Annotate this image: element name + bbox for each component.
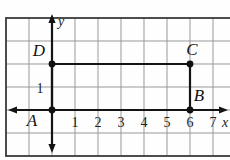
point-label-D: D [32, 41, 46, 60]
point-dot-C [187, 61, 194, 68]
y-axis-label: y [56, 14, 65, 29]
x-tick-label-3: 3 [118, 115, 125, 130]
point-dot-B [187, 107, 194, 114]
point-label-B: B [194, 86, 205, 105]
figure-container: ABCD 12345671 y x [0, 0, 230, 160]
point-dot-D [49, 61, 56, 68]
point-label-C: C [186, 40, 198, 59]
x-tick-label-6: 6 [187, 115, 194, 130]
x-axis-label: x [221, 115, 229, 130]
point-label-A: A [26, 111, 38, 130]
x-tick-label-1: 1 [72, 115, 79, 130]
x-axis-right-arrow-icon [219, 106, 228, 113]
x-tick-label-7: 7 [210, 115, 217, 130]
y-tick-label-1: 1 [37, 81, 44, 96]
y-axis-down-arrow-icon [48, 144, 55, 153]
x-tick-label-5: 5 [164, 115, 171, 130]
x-tick-label-2: 2 [95, 115, 102, 130]
point-dot-A [49, 107, 56, 114]
x-tick-label-4: 4 [141, 115, 148, 130]
x-axis-left-arrow-icon [8, 106, 17, 113]
coordinate-plane: ABCD 12345671 y x [0, 0, 230, 160]
